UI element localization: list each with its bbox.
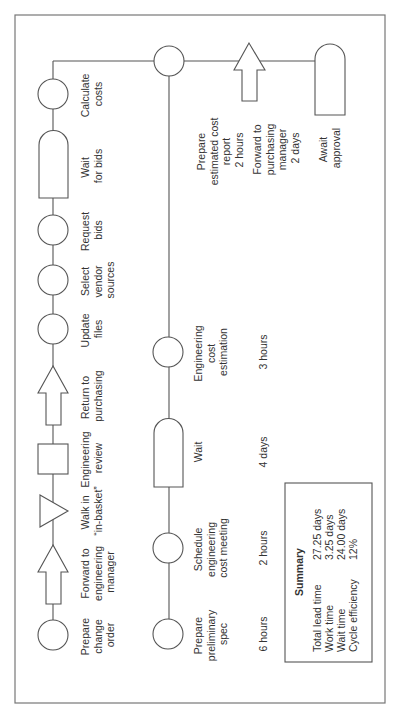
update-files-icon [38,314,68,344]
time-schedule-meeting: 2 hours [257,530,269,565]
time-engineering-cost-estimation: 3 hours [257,334,269,369]
summary-title: Summary [293,548,305,596]
label-walk-in-basket: Walk in “in-basket” [79,486,104,536]
label-update-files: Update files [79,311,104,348]
label-forward-to-purchasing-manager: Forward to purchasing manager 2 days [251,121,301,175]
label-select-vendor-sources: Select vendor sources [79,262,116,299]
summary-value-work-time: 3.25 days [323,514,335,560]
label-await-approval: Await approval [317,128,342,168]
label-calculate-costs: Calculate costs [79,71,104,118]
summary-value-cycle-efficiency: 12% [347,539,359,560]
wait-delay-icon [39,131,68,199]
label-prepare-change-order: Prepare change order [79,615,116,655]
label-engineering-cost-estimation: Engineering cost estimation [192,323,229,382]
calculate-costs-icon [38,79,68,109]
cost-estimation-icon [153,337,183,367]
label-wait: Wait [192,442,204,463]
process-flow-diagram: Prepare change order Forward to engineer… [0,0,397,717]
estimated-cost-report-icon [154,46,184,76]
request-bids-icon [38,215,68,245]
label-request-bids: Request bids [79,209,104,251]
select-vendor-icon [38,265,68,295]
prepare-spec-icon [153,619,183,649]
summary-label-cycle-efficiency: Cycle efficiency [347,578,359,652]
inspection-square-icon [38,444,68,474]
label-schedule-meeting: Schedule engineering cost meeting [192,518,229,578]
label-prepare-estimated-cost-report: Prepare estimated cost report 2 hours [195,115,245,186]
summary-label-total-lead-time: Total lead time [311,584,323,652]
label-forward-to-engineering: Forward to engineering manager [79,543,116,601]
summary-label-work-time: Work time [323,605,335,652]
await-approval-delay-icon [315,44,345,115]
label-wait-for-bids: Wait for bids [79,149,104,183]
summary-value-wait-time: 24.00 days [335,509,347,560]
return-arrow-icon [38,366,68,425]
summary-value-total-lead-time: 27.25 days [311,509,323,560]
label-engineering-review: Engineering review [79,429,104,488]
prepare-change-order-icon [38,620,68,650]
forward-purchasing-arrow-icon [234,43,265,101]
schedule-meeting-icon [153,533,183,563]
time-prepare-preliminary-spec: 6 hours [257,616,269,651]
forward-arrow-icon [38,545,68,604]
row1-labels: Prepare change order Forward to engineer… [79,71,116,655]
label-return-to-purchasing: Return to purchasing [79,370,104,422]
time-wait: 4 days [257,437,269,468]
label-prepare-preliminary-spec: Prepare preliminary spec [192,607,229,661]
transport-triangle-icon [40,495,68,527]
summary-label-wait-time: Wait time [335,608,347,652]
wait-delay-icon [154,419,183,488]
